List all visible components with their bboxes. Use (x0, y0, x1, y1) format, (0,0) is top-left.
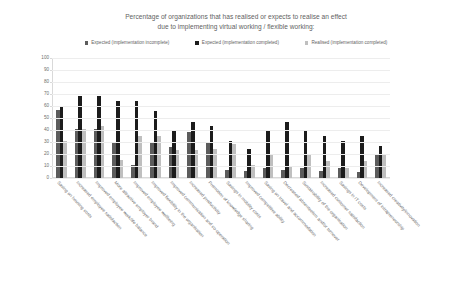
y-tick-label: 70 (44, 92, 49, 97)
chart-legend: Expected (implementation incomplete)Expe… (0, 40, 472, 46)
y-tick-label: 60 (44, 104, 49, 109)
bar[interactable] (63, 141, 67, 178)
legend-item-label: Expected (implementation incomplete) (91, 40, 169, 46)
bar[interactable] (101, 126, 105, 178)
y-tick-label: 40 (44, 128, 49, 133)
gridline (52, 118, 390, 119)
y-tick-label: 30 (44, 140, 49, 145)
legend-item-label: Expected (implementation completed) (202, 40, 279, 46)
gridline (52, 58, 390, 59)
x-axis-label: Saving on housing costs (57, 180, 94, 219)
x-axis-label: Savings in mobility costs (226, 180, 263, 219)
y-tick-mark (50, 154, 52, 155)
bar[interactable] (120, 160, 124, 178)
gridline (52, 154, 390, 155)
gridline (52, 166, 390, 167)
bar[interactable] (345, 168, 349, 178)
y-tick-label: 20 (44, 152, 49, 157)
y-tick-mark (50, 142, 52, 143)
legend-item-label: Realised (implementation completed) (311, 40, 387, 46)
gridline (52, 142, 390, 143)
y-tick-mark (50, 178, 52, 179)
plot-area: 0102030405060708090100 (52, 58, 390, 178)
legend-swatch-icon (195, 41, 199, 45)
bar[interactable] (232, 144, 236, 178)
x-axis-labels: Saving on housing costsIncreased employe… (52, 180, 390, 295)
chart-title: Percentage of organizations that has rea… (0, 12, 472, 31)
y-tick-mark (50, 118, 52, 119)
gridline (52, 130, 390, 131)
legend-swatch-icon (305, 41, 309, 45)
y-tick-label: 90 (44, 68, 49, 73)
legend-item[interactable]: Realised (implementation completed) (305, 40, 387, 46)
y-tick-mark (50, 82, 52, 83)
y-tick-label: 80 (44, 80, 49, 85)
gridline (52, 70, 390, 71)
y-tick-label: 10 (44, 164, 49, 169)
legend-swatch-icon (85, 41, 89, 45)
bar[interactable] (364, 161, 368, 178)
chart-title-line-1: Percentage of organizations that has rea… (0, 12, 472, 22)
y-tick-mark (50, 70, 52, 71)
bar[interactable] (289, 167, 293, 178)
y-tick-mark (50, 106, 52, 107)
y-tick-label: 50 (44, 116, 49, 121)
y-tick-mark (50, 58, 52, 59)
y-tick-label: 100 (41, 56, 49, 61)
bar[interactable] (326, 161, 330, 178)
y-tick-mark (50, 94, 52, 95)
chart-page: Percentage of organizations that has rea… (0, 0, 472, 301)
y-tick-mark (50, 166, 52, 167)
y-tick-mark (50, 130, 52, 131)
gridline (52, 94, 390, 95)
chart-title-line-2: due to implementing virtual working / fl… (0, 22, 472, 32)
legend-item[interactable]: Expected (implementation incomplete) (85, 40, 170, 46)
gridline (52, 106, 390, 107)
gridline (52, 178, 390, 179)
y-tick-label: 0 (46, 176, 49, 181)
legend-item[interactable]: Expected (implementation completed) (195, 40, 279, 46)
gridline (52, 82, 390, 83)
